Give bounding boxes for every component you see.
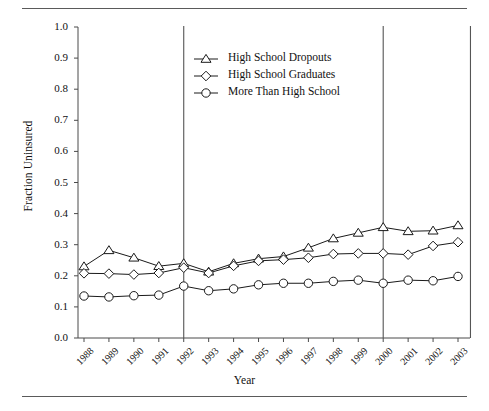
y-tick-label: 0.8 (38, 82, 68, 94)
y-tick-label: 0.7 (38, 113, 68, 125)
data-point (378, 249, 388, 259)
x-tick-marks (84, 338, 458, 342)
data-point (130, 292, 138, 300)
y-tick-label: 0.6 (38, 144, 68, 156)
diamond-icon (201, 71, 211, 81)
y-tick-label: 0.2 (38, 269, 68, 281)
data-point (453, 237, 463, 247)
data-point (303, 243, 313, 251)
data-point (404, 276, 412, 284)
y-tick-label: 0.9 (38, 51, 68, 63)
data-point (329, 277, 337, 285)
y-tick-marks (74, 27, 78, 338)
data-point (254, 256, 264, 266)
data-point (204, 268, 214, 278)
y-tick-label: 1.0 (38, 20, 68, 32)
data-point (279, 279, 287, 287)
data-point (378, 223, 388, 231)
data-point (454, 272, 462, 280)
data-point (105, 293, 113, 301)
data-point (204, 287, 212, 295)
legend-item-label: High School Graduates (228, 68, 335, 80)
data-point (403, 250, 413, 260)
figure-container: Fraction Uninsured Year 0.00.10.20.30.40… (0, 0, 489, 411)
y-axis-title: Fraction Uninsured (22, 106, 34, 226)
data-point (104, 269, 114, 279)
data-point (155, 291, 163, 299)
data-point (254, 281, 262, 289)
data-point (129, 270, 139, 280)
y-tick-label: 0.5 (38, 176, 68, 188)
data-point (304, 279, 312, 287)
series-1-triangle (79, 221, 463, 275)
y-tick-label: 0.3 (38, 238, 68, 250)
data-point (229, 285, 237, 293)
data-point (304, 253, 314, 263)
y-tick-label: 0.4 (38, 207, 68, 219)
data-point (80, 292, 88, 300)
data-point (354, 276, 362, 284)
data-point (180, 282, 188, 290)
y-tick-label: 0.1 (38, 300, 68, 312)
data-point (428, 241, 438, 251)
data-point (279, 255, 289, 265)
circle-icon (202, 89, 210, 97)
legend-markers (194, 54, 218, 97)
data-point (453, 221, 463, 229)
data-point (329, 249, 339, 259)
x-axis-title: Year (0, 374, 489, 386)
legend-item-label: More Than High School (228, 85, 340, 97)
triangle-up-icon (201, 54, 211, 62)
data-point (379, 279, 387, 287)
legend-item-label: High School Dropouts (228, 51, 332, 63)
data-point (353, 249, 363, 259)
y-tick-label: 0.0 (38, 331, 68, 343)
data-point (429, 277, 437, 285)
data-point (104, 246, 114, 254)
